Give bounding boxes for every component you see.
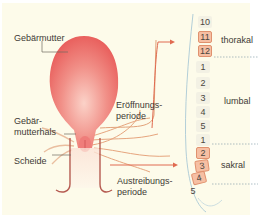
label-uterus: Gebärmutter xyxy=(14,33,65,43)
label-vagina: Scheide xyxy=(14,156,47,166)
vertebra-l5: 5 xyxy=(196,120,210,132)
label-cervix-line1: Gebär- xyxy=(14,116,42,126)
label-opening-line2: periode xyxy=(116,111,146,121)
label-opening-line1: Eröffnungs- xyxy=(116,100,162,110)
vertebra-s5: 5 xyxy=(186,185,200,197)
vertebra-t10: 10 xyxy=(198,16,212,28)
region-lumbar: lumbal xyxy=(224,96,251,106)
vertebra-l3: 3 xyxy=(196,92,210,104)
vertebra-s2: 2 xyxy=(196,147,210,159)
region-thoracic: thorakal xyxy=(221,35,253,45)
vertebra-s1: 1 xyxy=(196,134,210,146)
label-cervix-line2: mutterhals xyxy=(14,127,56,137)
vertebra-t12: 12 xyxy=(198,45,212,57)
vertebra-t11: 11 xyxy=(198,31,212,43)
label-expulsion-line2: periode xyxy=(117,187,147,197)
label-expulsion-line1: Austreibungs- xyxy=(117,176,173,186)
vertebra-l1: 1 xyxy=(196,61,210,73)
region-sacral: sakral xyxy=(221,160,245,170)
vertebra-l2: 2 xyxy=(196,77,210,89)
vertebra-l4: 4 xyxy=(196,106,210,118)
